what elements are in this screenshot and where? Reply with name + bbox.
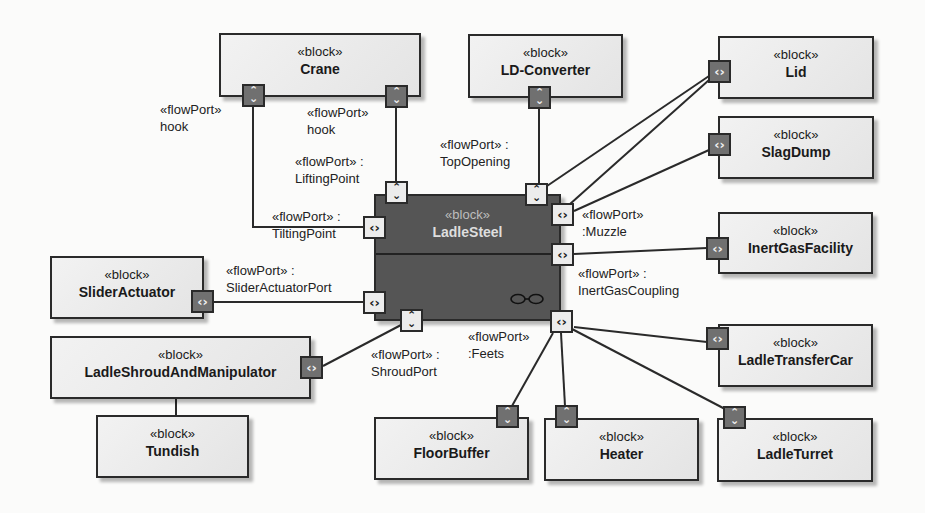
port-floorbuffer[interactable]: ⌃⌄ [496,405,519,428]
label-stereotype: «flowPort» [160,101,221,118]
flowport-horizontal-icon: ‹› [302,358,321,377]
block-name: SliderActuator [52,283,202,301]
label-stereotype: «flowPort» [307,104,368,121]
block-stereotype: «block» [52,347,309,363]
label-stereotype: «flowPort» [468,328,529,345]
block-stereotype: «block» [720,47,872,63]
label-topopening: «flowPort» : TopOpening [440,136,510,170]
port-ladleturret[interactable]: ⌃⌄ [723,406,746,429]
compartment-divider [376,253,559,255]
block-name: LadleSteel [376,223,559,241]
flowport-horizontal-icon: ‹› [710,135,729,154]
label-stereotype: «flowPort» : [578,265,679,282]
connector-muzzle-slagdump [574,150,709,211]
label-muzzle: «flowPort» :Muzzle [582,206,643,240]
label-liftingpoint: «flowPort» : LiftingPoint [295,153,364,187]
port-ldconverter[interactable]: ⌃⌄ [528,86,551,109]
block-stereotype: «block» [546,429,697,445]
port-muzzle[interactable]: ‹› [551,203,574,226]
flowport-horizontal-icon: ‹› [365,293,384,312]
flowport-vertical-icon: ⌃⌄ [557,407,576,424]
block-name: FloorBuffer [376,444,527,462]
label-stereotype: «flowPort» : [440,136,510,153]
block-name: LadleTransferCar [720,351,871,369]
decomposition-icon [509,293,545,305]
flowport-vertical-icon: ⌃⌄ [402,311,421,328]
block-stereotype: «block» [376,428,527,444]
flowport-vertical-icon: ⌃⌄ [530,88,549,105]
flowport-horizontal-icon: ‹› [708,329,727,348]
block-stereotype: «block» [98,426,247,442]
flowport-vertical-icon: ⌃⌄ [387,183,406,200]
block-tundish[interactable]: «block» Tundish [96,415,249,478]
label-stereotype: «flowPort» : [371,346,440,363]
block-ladlesteel[interactable]: «block» LadleSteel [374,194,561,321]
label-port-name: :Feets [468,345,529,362]
block-name: Crane [221,60,419,78]
label-stereotype: «flowPort» [582,206,643,223]
label-slideractuatorport: «flowPort» : SliderActuatorPort [226,262,332,296]
block-slagdump[interactable]: «block» SlagDump [718,116,874,179]
port-tiltingpoint[interactable]: ‹› [363,216,386,239]
port-slideractuatorport[interactable]: ‹› [363,291,386,314]
block-ladletransfercar[interactable]: «block» LadleTransferCar [718,324,873,387]
block-stereotype: «block» [720,127,872,143]
block-stereotype: «block» [221,44,419,60]
label-shroudport: «flowPort» : ShroudPort [371,346,440,380]
label-crane-hook-right: «flowPort» hook [307,104,368,138]
port-shroudport[interactable]: ⌃⌄ [400,309,423,332]
label-port-name: hook [160,118,221,135]
label-port-name: TiltingPoint [272,225,341,242]
flowport-vertical-icon: ⌃⌄ [244,86,263,103]
port-slagdump[interactable]: ‹› [708,133,731,156]
block-stereotype: «block» [720,335,871,351]
label-feets: «flowPort» :Feets [468,328,529,362]
label-port-name: :Muzzle [582,223,643,240]
port-inertgascoupling[interactable]: ‹› [551,243,574,266]
flowport-horizontal-icon: ‹› [553,205,572,224]
label-port-name: SliderActuatorPort [226,279,332,296]
label-port-name: TopOpening [440,153,510,170]
block-name: LD-Converter [470,61,621,79]
block-name: LadleTurret [719,445,871,463]
flowport-horizontal-icon: ‹› [710,62,729,81]
block-slideractuator[interactable]: «block» SliderActuator [50,256,204,319]
port-feets[interactable]: ‹› [550,310,573,333]
label-stereotype: «flowPort» : [272,208,341,225]
block-name: InertGasFacility [720,239,871,257]
label-tiltingpoint: «flowPort» : TiltingPoint [272,208,341,242]
flowport-horizontal-icon: ‹› [193,292,212,311]
block-name: Lid [720,63,872,81]
port-lid[interactable]: ‹› [708,60,731,83]
label-stereotype: «flowPort» : [295,153,364,170]
flowport-horizontal-icon: ‹› [365,218,384,237]
port-ladletransfercar[interactable]: ‹› [706,327,729,350]
label-inertgascoupling: «flowPort» : InertGasCoupling [578,265,679,299]
port-ladleshroud[interactable]: ‹› [300,356,323,379]
block-name: Heater [546,445,697,463]
flowport-horizontal-icon: ‹› [552,312,571,331]
block-lid[interactable]: «block» Lid [718,36,874,99]
label-port-name: LiftingPoint [295,170,364,187]
block-ladleshroudandmanipulator[interactable]: «block» LadleShroudAndManipulator [50,336,311,399]
port-slideractuator[interactable]: ‹› [191,290,214,313]
label-stereotype: «flowPort» : [226,262,332,279]
port-topopening[interactable]: ⌃⌄ [525,183,548,206]
block-stereotype: «block» [719,429,871,445]
port-crane-hook-left[interactable]: ⌃⌄ [242,84,265,107]
label-port-name: InertGasCoupling [578,282,679,299]
flowport-vertical-icon: ⌃⌄ [527,185,546,202]
port-liftingpoint[interactable]: ⌃⌄ [385,181,408,204]
connector-muzzle-lid [570,80,709,204]
flowport-vertical-icon: ⌃⌄ [498,407,517,424]
port-crane-hook-right[interactable]: ⌃⌄ [385,85,408,108]
port-heater[interactable]: ⌃⌄ [555,405,578,428]
port-inertgasfacility[interactable]: ‹› [706,237,729,260]
block-name: LadleShroudAndManipulator [52,363,309,381]
block-inertgasfacility[interactable]: «block» InertGasFacility [718,212,873,274]
block-name: SlagDump [720,143,872,161]
block-stereotype: «block» [720,223,871,239]
label-crane-hook-left: «flowPort» hook [160,101,221,135]
block-stereotype: «block» [376,207,559,223]
connector-inertgas [574,248,707,254]
